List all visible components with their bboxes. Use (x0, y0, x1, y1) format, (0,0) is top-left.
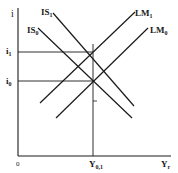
is0-label: IS0 (27, 26, 39, 38)
is1-curve (53, 13, 134, 106)
lm0-curve (56, 28, 148, 118)
i0-tick-label: i0 (6, 77, 12, 89)
is0-curve (38, 28, 132, 118)
i1-tick-label: i1 (6, 47, 12, 59)
origin-label: 0 (16, 160, 20, 169)
lm1-curve (40, 12, 135, 103)
x-tick-y01-label: Y0,1 (89, 160, 103, 172)
x-axis-label: Yr (161, 160, 170, 172)
lm1-label: LM1 (135, 9, 153, 21)
lm0-label: LM0 (150, 26, 168, 38)
is1-label: IS1 (41, 8, 53, 20)
y-axis-label: i (11, 9, 14, 18)
